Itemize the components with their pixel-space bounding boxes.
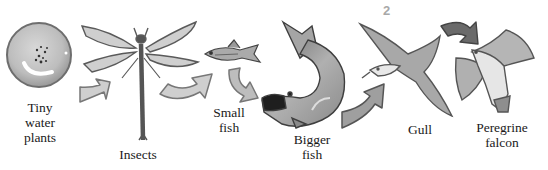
- illustration-layer: [0, 0, 548, 170]
- label-gull: Gull: [400, 122, 440, 137]
- label-tiny-water-plants: Tiny water plants: [14, 100, 66, 145]
- water-plants-icon: [7, 23, 71, 87]
- small-fish-icon: [205, 40, 260, 62]
- arrow-bigger-fish-to-gull-icon: [342, 84, 384, 128]
- bigger-fish-icon: [262, 22, 345, 128]
- food-chain-diagram: 2: [0, 0, 548, 170]
- arrow-plants-to-insects-icon: [80, 79, 110, 102]
- arrow-gull-to-falcon-icon: [441, 22, 478, 44]
- label-small-fish: Small fish: [204, 105, 254, 135]
- label-peregrine-falcon: Peregrine falcon: [467, 120, 537, 150]
- label-insects: Insects: [108, 147, 168, 162]
- arrow-insects-to-small-fish-icon: [160, 74, 212, 99]
- label-bigger-fish: Bigger fish: [284, 132, 340, 162]
- arrow-small-fish-to-bigger-fish-icon: [229, 68, 258, 102]
